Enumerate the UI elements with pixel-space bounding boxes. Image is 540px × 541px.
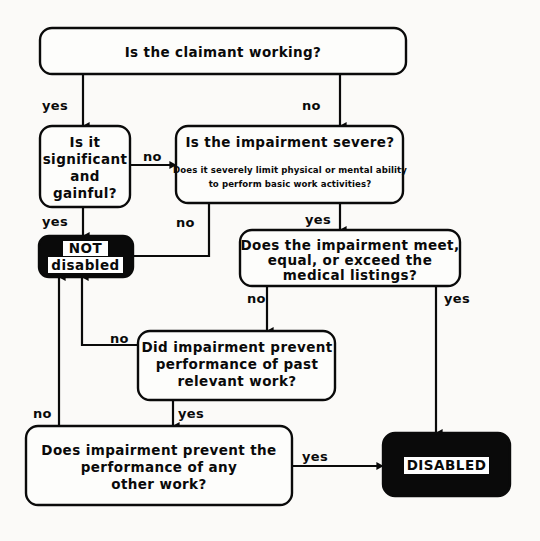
node-other-work-line2: performance of any xyxy=(81,459,238,475)
edge-label-listings-no: no xyxy=(247,291,266,306)
edge-label-severe-no: no xyxy=(176,215,195,230)
node-medical-listings-line3: medical listings? xyxy=(283,267,417,283)
node-significant-gainful-line2: significant xyxy=(43,151,128,167)
edge-label-severe-yes: yes xyxy=(305,212,331,227)
node-impairment-severe-sub1: Does it severely limit physical or menta… xyxy=(173,165,407,175)
node-claimant-working[interactable]: Is the claimant working? xyxy=(40,28,406,74)
edge-label-past-work-no: no xyxy=(110,331,129,346)
edge-label-working-yes: yes xyxy=(42,98,68,113)
node-other-work-line1: Does impairment prevent the xyxy=(41,442,276,458)
edge-label-other-work-no: no xyxy=(33,406,52,421)
node-disabled[interactable]: DISABLED xyxy=(383,433,510,496)
edge-severe-no xyxy=(132,203,209,256)
node-significant-gainful-line1: Is it xyxy=(70,134,101,150)
node-impairment-severe[interactable]: Is the impairment severe? Does it severe… xyxy=(173,126,407,203)
node-not-disabled-line1: NOT xyxy=(69,240,103,256)
node-past-relevant-work-line1: Did impairment prevent xyxy=(141,339,332,355)
node-not-disabled-line2: disabled xyxy=(51,257,120,273)
edge-label-listings-yes: yes xyxy=(444,291,470,306)
node-significant-gainful-line4: gainful? xyxy=(53,185,117,201)
node-medical-listings-line1: Does the impairment meet, xyxy=(241,237,460,253)
edge-label-other-work-yes: yes xyxy=(302,449,328,464)
node-impairment-severe-sub2: to perform basic work activities? xyxy=(209,179,372,189)
edge-label-past-work-yes: yes xyxy=(178,406,204,421)
node-past-relevant-work-line2: performance of past xyxy=(156,356,319,372)
node-past-relevant-work[interactable]: Did impairment prevent performance of pa… xyxy=(138,331,335,400)
node-disabled-line1: DISABLED xyxy=(407,457,487,473)
node-past-relevant-work-line3: relevant work? xyxy=(177,373,296,389)
node-medical-listings[interactable]: Does the impairment meet, equal, or exce… xyxy=(240,230,460,286)
edge-label-working-no: no xyxy=(302,98,321,113)
node-significant-gainful-line3: and xyxy=(70,168,100,184)
node-not-disabled[interactable]: NOT disabled xyxy=(39,236,133,277)
node-impairment-severe-label: Is the impairment severe? xyxy=(185,134,394,150)
node-significant-gainful[interactable]: Is it significant and gainful? xyxy=(40,126,130,207)
node-other-work[interactable]: Does impairment prevent the performance … xyxy=(26,426,292,505)
edge-label-gainful-yes: yes xyxy=(42,214,68,229)
flowchart-canvas: Is the claimant working? Is it significa… xyxy=(0,0,540,541)
node-medical-listings-line2: equal, or exceed the xyxy=(268,252,432,268)
flowchart-svg: Is the claimant working? Is it significa… xyxy=(0,0,540,541)
edge-label-gainful-no: no xyxy=(143,149,162,164)
node-claimant-working-label: Is the claimant working? xyxy=(125,44,322,60)
node-other-work-line3: other work? xyxy=(111,476,206,492)
